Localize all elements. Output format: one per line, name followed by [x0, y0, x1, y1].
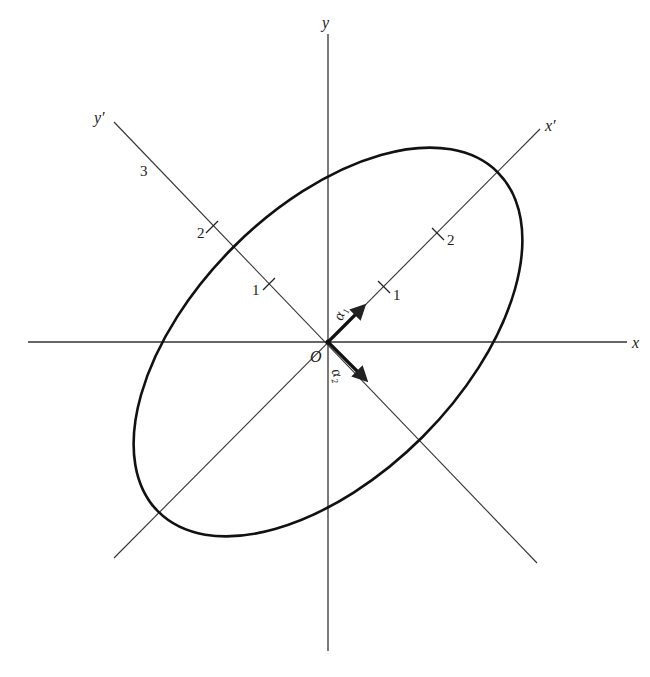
y-axis-label: y — [320, 14, 330, 32]
x-axis-label: x — [631, 334, 639, 351]
y-prime-tick-3: 3 — [140, 163, 148, 179]
y-prime-label: y′ — [92, 109, 105, 127]
x-prime-ticks — [378, 228, 444, 293]
ellipse-diagram: 1 2 1 2 3 α₁ α₂ x y x′ y′ O — [0, 0, 650, 677]
x-prime-tick-2: 2 — [447, 232, 455, 248]
y-prime-tick-2: 2 — [197, 225, 205, 241]
origin-label: O — [310, 348, 322, 365]
y-prime-tick-1: 1 — [252, 282, 260, 298]
origin-point — [326, 340, 331, 345]
x-prime-tick-1: 1 — [393, 287, 401, 303]
x-prime-label: x′ — [544, 117, 556, 134]
alpha2-label: α₂ — [329, 366, 349, 384]
alpha1-label: α₁ — [330, 305, 350, 323]
